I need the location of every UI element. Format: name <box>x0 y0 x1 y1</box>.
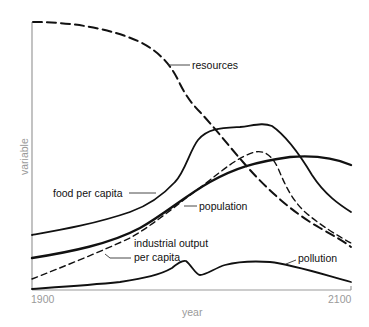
world-model-chart: resources food per capita population ind… <box>0 0 369 327</box>
industrial-output-label-line2: per capita <box>134 251 180 263</box>
industrial-leader <box>105 254 131 258</box>
pollution-label: pollution <box>298 252 337 264</box>
resources-curve <box>33 22 351 247</box>
industrial-output-label-line1: industrial output <box>134 237 208 249</box>
x-tick-1900: 1900 <box>31 293 55 305</box>
x-tick-2100: 2100 <box>328 293 352 305</box>
x-axis-label: year <box>182 306 203 318</box>
pollution-leader <box>286 260 296 264</box>
resources-label: resources <box>192 59 238 71</box>
pollution-curve <box>32 261 351 289</box>
food-per-capita-label: food per capita <box>53 187 123 199</box>
y-axis-label: variable <box>18 138 30 175</box>
population-label: population <box>199 200 248 212</box>
